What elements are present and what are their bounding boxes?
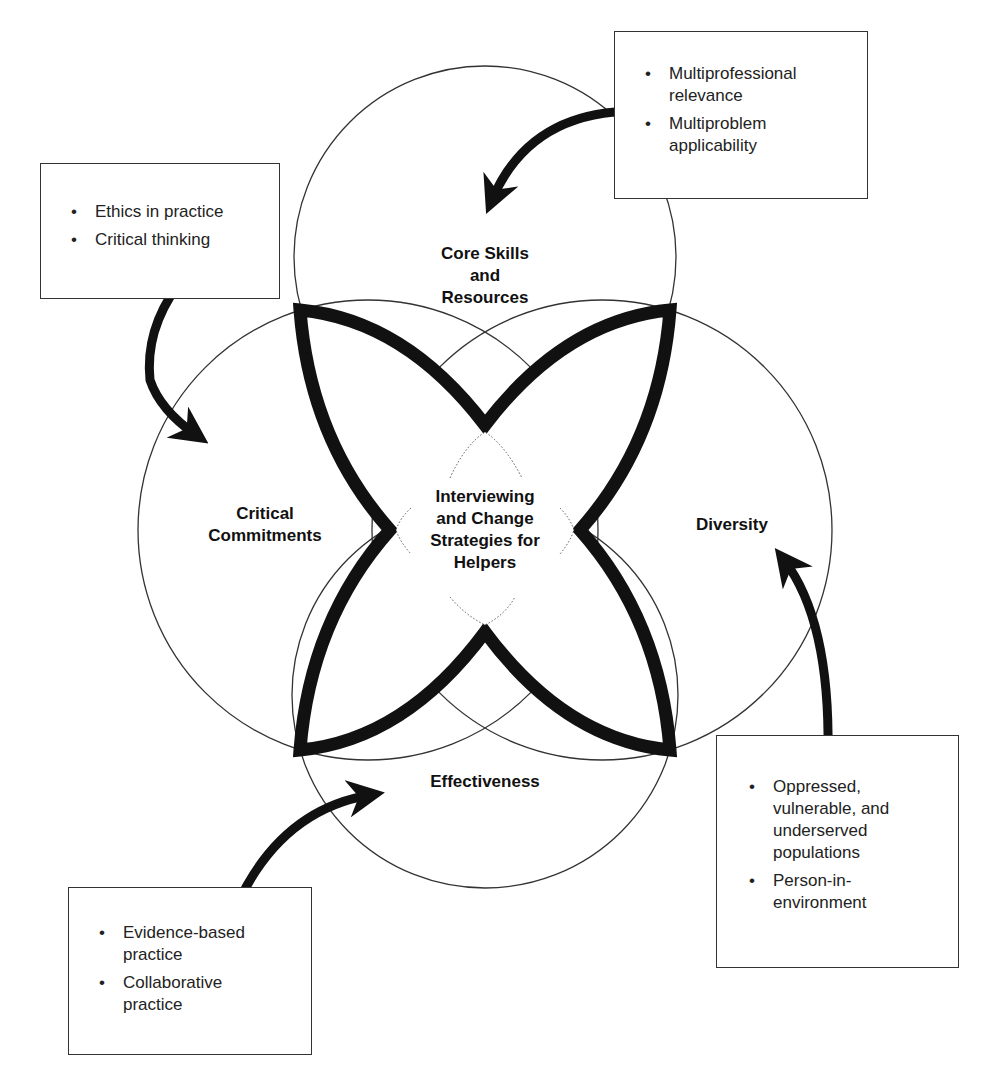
list-item: •Collaborativepractice	[91, 972, 303, 1016]
label-line: Interviewing	[405, 486, 565, 508]
item-text: Evidence-based	[123, 923, 245, 942]
box-critical-commitments-notes: •Ethics in practice •Critical thinking	[40, 163, 280, 299]
bullet-icon: •	[749, 776, 755, 798]
arrow-to-critical-commitments	[149, 285, 196, 435]
bullet-icon: •	[99, 972, 105, 994]
label-diversity: Diversity	[672, 514, 792, 536]
label-line: Helpers	[405, 552, 565, 574]
list-item: •Person-in-environment	[741, 870, 950, 914]
label-line: and Change	[405, 508, 565, 530]
item-text: vulnerable, and	[773, 799, 889, 818]
label-effectiveness: Effectiveness	[410, 771, 560, 793]
item-text: Oppressed,	[773, 777, 861, 796]
item-text: Person-in-	[773, 871, 851, 890]
label-center: Interviewing and Change Strategies for H…	[405, 486, 565, 574]
item-text: practice	[123, 995, 183, 1014]
label-critical-commitments: Critical Commitments	[195, 503, 335, 547]
bullet-icon: •	[71, 201, 77, 223]
list-item: •Critical thinking	[63, 229, 271, 251]
box-core-skills-notes: •Multiprofessionalrelevance •Multiproble…	[614, 31, 868, 199]
item-text: Multiprofessional	[669, 64, 797, 83]
list-item: •Evidence-basedpractice	[91, 922, 303, 966]
box-effectiveness-notes: •Evidence-basedpractice •Collaborativepr…	[68, 887, 312, 1055]
label-core-skills: Core Skills and Resources	[415, 243, 555, 309]
item-text: environment	[773, 893, 867, 912]
label-line: and	[415, 265, 555, 287]
item-text: practice	[123, 945, 183, 964]
list-item: •Oppressed,vulnerable, andunderservedpop…	[741, 776, 950, 864]
item-text: Collaborative	[123, 973, 222, 992]
arrow-to-diversity	[784, 560, 828, 752]
item-text: underserved	[773, 821, 868, 840]
bullet-icon: •	[645, 113, 651, 135]
item-text: Ethics in practice	[95, 202, 224, 221]
list-item: •Multiproblemapplicability	[637, 113, 859, 157]
bullet-icon: •	[71, 229, 77, 251]
bullet-icon: •	[99, 922, 105, 944]
item-text: populations	[773, 843, 860, 862]
item-text: Critical thinking	[95, 230, 210, 249]
bullet-icon: •	[645, 63, 651, 85]
item-text: Multiproblem	[669, 114, 766, 133]
bullet-icon: •	[749, 870, 755, 892]
label-line: Commitments	[195, 525, 335, 547]
label-line: Core Skills	[415, 243, 555, 265]
box-diversity-notes: •Oppressed,vulnerable, andunderservedpop…	[716, 735, 959, 968]
label-line: Effectiveness	[410, 771, 560, 793]
label-line: Strategies for	[405, 530, 565, 552]
list-item: •Multiprofessionalrelevance	[637, 63, 859, 107]
label-line: Resources	[415, 287, 555, 309]
label-line: Diversity	[672, 514, 792, 536]
item-text: relevance	[669, 86, 743, 105]
list-item: •Ethics in practice	[63, 201, 271, 223]
label-line: Critical	[195, 503, 335, 525]
item-text: applicability	[669, 136, 757, 155]
